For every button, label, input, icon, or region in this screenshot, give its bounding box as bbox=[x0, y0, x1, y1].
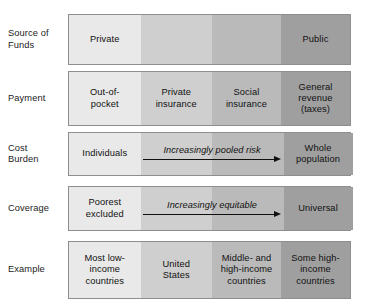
bar-cost-burden: Individuals Increasingly pooled risk Who… bbox=[68, 132, 351, 176]
cell-cost-whole-population: Whole population bbox=[284, 133, 353, 175]
cell-line-2: insurance bbox=[156, 99, 197, 110]
cell-coverage-equitable-span: Increasingly equitable bbox=[141, 187, 284, 230]
row-label-line2: Burden bbox=[8, 154, 39, 164]
cell-line-1: Some high- bbox=[291, 253, 339, 264]
row-label-line1: Cost bbox=[8, 143, 28, 153]
cell-cost-individuals: Individuals bbox=[69, 133, 141, 175]
row-label-line1: Source of bbox=[8, 28, 49, 38]
row-label-text: Payment bbox=[8, 93, 45, 104]
cell-line-3: countries bbox=[296, 276, 335, 287]
row-label-cost-burden: Cost Burden bbox=[0, 132, 68, 176]
cell-example-some-high-income: Some high- income countries bbox=[281, 242, 350, 298]
cell-example-low-income: Most low- income countries bbox=[69, 242, 141, 298]
cell-line-3: countries bbox=[85, 276, 124, 287]
cell-coverage-shade-2 bbox=[141, 187, 213, 230]
row-source-of-funds: Source of Funds Private Public bbox=[0, 14, 369, 65]
bar-payment: Out-of- pocket Private insurance Social … bbox=[68, 71, 351, 126]
cell-source-public: Public bbox=[281, 15, 350, 64]
cell-line-2: pocket bbox=[91, 99, 119, 110]
cell-line-3: (taxes) bbox=[301, 104, 330, 115]
cell-line-1: Whole bbox=[305, 143, 332, 154]
row-label-payment: Payment bbox=[0, 71, 68, 126]
row-label-example: Example bbox=[0, 241, 68, 299]
cell-line-1: Poorest bbox=[88, 197, 121, 208]
cell-example-middle-high-income: Middle- and high-income countries bbox=[212, 242, 281, 298]
row-payment: Payment Out-of- pocket Private insurance… bbox=[0, 71, 369, 126]
bar-source-of-funds: Private Public bbox=[68, 14, 351, 65]
bar-example: Most low- income countries United States… bbox=[68, 241, 351, 299]
row-label-source-of-funds: Source of Funds bbox=[0, 14, 68, 65]
cell-line-1: Out-of- bbox=[90, 87, 120, 98]
row-label-coverage: Coverage bbox=[0, 186, 68, 231]
row-label-text: Example bbox=[8, 264, 45, 275]
cell-line-2: population bbox=[296, 154, 340, 165]
cell-payment-private-insurance: Private insurance bbox=[141, 72, 213, 125]
cell-cost-pooled-risk-span: Increasingly pooled risk bbox=[141, 133, 284, 175]
row-coverage: Coverage Poorest excluded Increasingly e… bbox=[0, 186, 369, 231]
cell-payment-general-revenue: General revenue (taxes) bbox=[281, 72, 350, 125]
health-financing-continuum-figure: Source of Funds Private Public Payment O… bbox=[0, 0, 369, 306]
cell-line-1: Most low- bbox=[84, 253, 125, 264]
cell-source-blank-2 bbox=[141, 15, 213, 64]
cell-payment-out-of-pocket: Out-of- pocket bbox=[69, 72, 141, 125]
row-label-text: Coverage bbox=[8, 203, 49, 214]
cell-line-2: insurance bbox=[226, 99, 267, 110]
row-example: Example Most low- income countries Unite… bbox=[0, 241, 369, 299]
cell-line-1: United bbox=[163, 259, 190, 270]
cell-line-2: States bbox=[163, 270, 190, 281]
cell-coverage-universal: Universal bbox=[284, 187, 353, 230]
cell-cost-shade-3 bbox=[212, 133, 284, 175]
row-label-line2: Funds bbox=[8, 40, 34, 50]
cell-line-1: General bbox=[299, 82, 333, 93]
cell-coverage-poorest-excluded: Poorest excluded bbox=[69, 187, 141, 230]
row-cost-burden: Cost Burden Individuals Increasingly poo… bbox=[0, 132, 369, 176]
cell-source-private: Private bbox=[69, 15, 141, 64]
cell-line-2: excluded bbox=[86, 209, 124, 220]
cell-coverage-shade-3 bbox=[212, 187, 284, 230]
cell-line-2: income bbox=[89, 264, 120, 275]
cell-payment-social-insurance: Social insurance bbox=[212, 72, 281, 125]
bar-coverage: Poorest excluded Increasingly equitable … bbox=[68, 186, 351, 231]
cell-line-1: Private bbox=[161, 87, 191, 98]
cell-line-1: Social bbox=[234, 87, 260, 98]
cell-source-blank-3 bbox=[212, 15, 281, 64]
cell-example-united-states: United States bbox=[141, 242, 213, 298]
cell-line-2: income bbox=[300, 264, 331, 275]
cell-line-1: Middle- and bbox=[222, 253, 272, 264]
cell-line-3: countries bbox=[227, 276, 266, 287]
cell-line-2: high-income bbox=[221, 264, 273, 275]
cell-line-2: revenue bbox=[298, 93, 332, 104]
cell-cost-shade-2 bbox=[141, 133, 213, 175]
